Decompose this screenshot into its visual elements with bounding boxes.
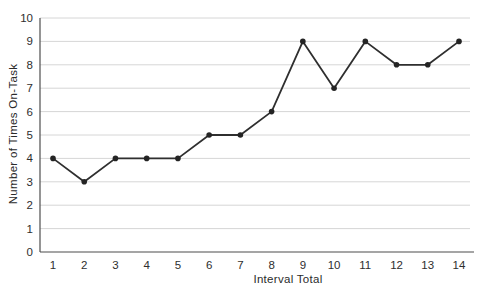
data-point (175, 156, 181, 162)
data-point (81, 179, 87, 185)
y-tick-label: 0 (27, 246, 33, 258)
chart-svg: 0123456789101234567891011121314 (0, 0, 481, 298)
x-tick-label: 13 (421, 259, 434, 271)
x-tick-label: 12 (390, 259, 403, 271)
x-tick-label: 2 (81, 259, 87, 271)
data-point (456, 39, 462, 45)
data-point (206, 132, 212, 138)
y-tick-label: 2 (27, 199, 33, 211)
line-chart-figure: 0123456789101234567891011121314 Number o… (0, 0, 481, 298)
y-tick-label: 4 (27, 152, 34, 164)
data-point (50, 156, 56, 162)
data-point (394, 62, 400, 68)
data-point (113, 156, 119, 162)
y-tick-label: 1 (27, 223, 33, 235)
x-tick-label: 10 (328, 259, 341, 271)
data-point (144, 156, 150, 162)
x-tick-label: 6 (206, 259, 212, 271)
x-axis-label: Interval Total (253, 273, 322, 285)
data-point (300, 39, 306, 45)
y-tick-label: 5 (27, 129, 33, 141)
y-tick-label: 8 (27, 59, 33, 71)
y-tick-label: 3 (27, 176, 33, 188)
x-tick-label: 4 (143, 259, 150, 271)
x-tick-label: 8 (268, 259, 274, 271)
data-point (238, 132, 244, 138)
y-tick-label: 7 (27, 82, 33, 94)
x-tick-label: 9 (300, 259, 306, 271)
data-point (363, 39, 369, 45)
x-tick-label: 3 (112, 259, 118, 271)
y-tick-label: 9 (27, 35, 33, 47)
y-tick-label: 10 (20, 12, 33, 24)
x-tick-label: 11 (359, 259, 371, 271)
data-point (331, 85, 337, 91)
x-tick-label: 5 (175, 259, 181, 271)
x-tick-label: 1 (50, 259, 56, 271)
data-point (269, 109, 275, 115)
y-axis-label: Number of Times On-Task (7, 64, 19, 204)
data-point (425, 62, 431, 68)
x-tick-label: 14 (453, 259, 466, 271)
x-tick-label: 7 (237, 259, 243, 271)
y-tick-label: 6 (27, 106, 33, 118)
